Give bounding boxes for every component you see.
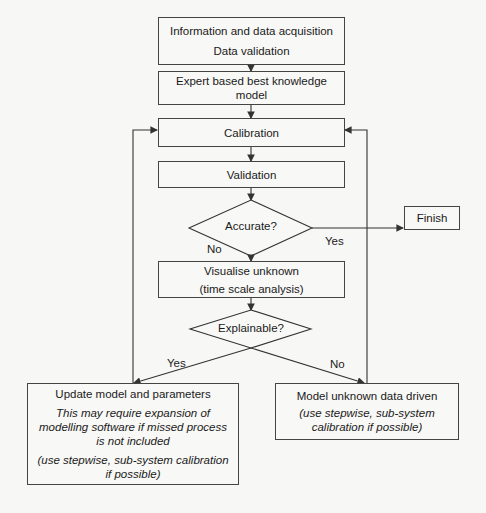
acquisition-label: Information and data acquisition	[170, 24, 333, 38]
expert-model-label-2: model	[236, 88, 267, 102]
update-model-title: Update model and parameters	[55, 387, 210, 401]
explainable-yes-label: Yes	[167, 357, 186, 369]
update-model-note: This may require expansion of modelling …	[36, 406, 230, 448]
data-validation-label: Data validation	[213, 44, 289, 58]
finish-box: Finish	[404, 206, 460, 230]
acquisition-box: Information and data acquisition Data va…	[158, 17, 345, 65]
model-unknown-box: Model unknown data driven (use stepwise,…	[275, 383, 459, 440]
model-unknown-title: Model unknown data driven	[297, 389, 438, 403]
model-unknown-note: (use stepwise, sub-system calibration if…	[290, 406, 444, 434]
explainable-no-label: No	[330, 358, 345, 370]
validation-label: Validation	[227, 168, 277, 182]
expert-model-box: Expert based best knowledge model	[158, 71, 345, 105]
update-model-box: Update model and parameters This may req…	[27, 383, 239, 485]
time-scale-label: (time scale analysis)	[199, 282, 303, 296]
visualise-label: Visualise unknown	[204, 264, 299, 278]
visualise-box: Visualise unknown (time scale analysis)	[158, 261, 345, 298]
accurate-yes-label: Yes	[325, 235, 344, 247]
accurate-decision-label: Accurate?	[201, 220, 301, 232]
finish-label: Finish	[417, 211, 448, 225]
expert-model-label-1: Expert based best knowledge	[176, 74, 327, 88]
explainable-decision-label: Explainable?	[201, 322, 301, 334]
calibration-label: Calibration	[224, 126, 279, 140]
calibration-box: Calibration	[158, 118, 345, 147]
validation-box: Validation	[158, 161, 345, 188]
accurate-no-label: No	[207, 243, 222, 255]
update-model-stepwise-note: (use stepwise, sub-system calibration if…	[36, 453, 230, 481]
